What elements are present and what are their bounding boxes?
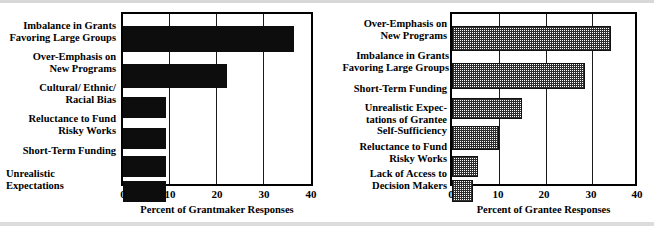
category-label: Imbalance in Grants Favoring Large Group… <box>327 50 449 73</box>
x-tick-label: 20 <box>202 188 232 200</box>
category-labels-grantmaker: Imbalance in Grants Favoring Large Group… <box>2 0 116 226</box>
x-tick-label: 30 <box>576 188 606 200</box>
bar <box>452 26 611 51</box>
chart-grantee: Over-Emphasis on New Programs Imbalance … <box>327 0 654 226</box>
plot-area-grantmaker <box>121 12 313 186</box>
figure-container: Imbalance in Grants Favoring Large Group… <box>0 0 654 226</box>
category-label: Reluctance to Fund Risky Works <box>2 113 116 136</box>
category-label: Unrealistic Expectations <box>6 168 120 191</box>
category-label: Imbalance in Grants Favoring Large Group… <box>2 20 116 43</box>
bar <box>123 128 166 149</box>
category-label: Unrealistic Expec- tations of Grantee Se… <box>327 102 447 137</box>
bar <box>452 156 478 177</box>
x-tick-label: 40 <box>296 188 326 200</box>
category-labels-grantee: Over-Emphasis on New Programs Imbalance … <box>327 0 447 226</box>
category-label: Over-Emphasis on New Programs <box>327 18 447 41</box>
x-axis-title: Percent of Grantmaker Responses <box>121 204 313 215</box>
x-tick-label: 0 <box>436 188 466 200</box>
bar <box>452 126 499 150</box>
bar <box>123 156 166 177</box>
plot-area-grantee <box>450 12 637 186</box>
x-tick-label: 0 <box>108 188 138 200</box>
category-label: Short-Term Funding <box>327 83 447 95</box>
x-tick-label: 40 <box>622 188 652 200</box>
x-tick-label: 20 <box>529 188 559 200</box>
category-label: Lack of Access to Decision Makers <box>327 168 447 191</box>
bar <box>452 98 522 119</box>
x-tick-label: 10 <box>483 188 513 200</box>
category-label: Cultural/ Ethnic/ Racial Bias <box>2 82 116 105</box>
bar <box>452 63 585 89</box>
x-tick-label: 30 <box>249 188 279 200</box>
x-tick-label: 10 <box>155 188 185 200</box>
category-label: Reluctance to Fund Risky Works <box>327 141 447 164</box>
category-label: Over-Emphasis on New Programs <box>2 51 116 74</box>
bar <box>123 64 227 88</box>
chart-grantmaker: Imbalance in Grants Favoring Large Group… <box>0 0 327 226</box>
bar <box>123 26 294 52</box>
bar <box>123 97 166 118</box>
x-axis-title: Percent of Grantee Responses <box>450 204 637 215</box>
category-label: Short-Term Funding <box>2 145 116 157</box>
